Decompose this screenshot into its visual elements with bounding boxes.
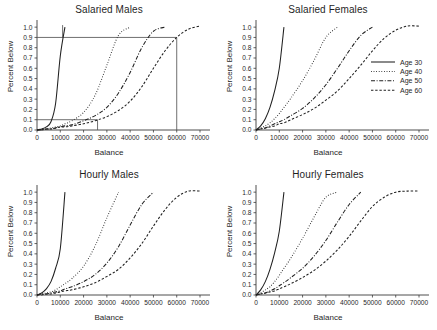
x-tick-label: 10000 (51, 299, 70, 306)
series-curve (256, 191, 419, 295)
y-tick-label: 0.9 (242, 34, 251, 41)
x-tick-label: 20000 (293, 134, 312, 141)
y-tick-label: 0.5 (242, 75, 251, 82)
x-tick-label: 60000 (387, 134, 406, 141)
series-curve (37, 27, 65, 130)
y-tick-label: 0.2 (242, 106, 251, 113)
y-tick-label: 0.7 (23, 54, 32, 61)
x-tick-label: 20000 (74, 299, 93, 306)
y-tick-label: 0.9 (23, 199, 32, 206)
y-tick-label: 0.1 (23, 281, 32, 288)
x-tick-label: 10000 (270, 134, 289, 141)
y-tick-label: 0.3 (242, 96, 251, 103)
y-tick-label: 0.1 (242, 116, 251, 123)
y-tick-label: 0.5 (23, 240, 32, 247)
x-tick-label: 50000 (363, 299, 382, 306)
plot-area: 0100002000030000400005000060000700000.00… (0, 0, 218, 165)
y-tick-label: 0.2 (23, 271, 32, 278)
y-tick-label: 0.1 (242, 281, 251, 288)
legend-label: Age 40 (400, 68, 422, 76)
y-tick-label: 0.4 (242, 250, 251, 257)
y-tick-label: 0.9 (242, 199, 251, 206)
y-tick-label: 1.0 (23, 189, 32, 196)
chart-panel-hourly-males: Hourly Males Percent Below Balance 01000… (0, 165, 218, 330)
y-tick-label: 0.5 (242, 240, 251, 247)
chart-panel-salaried-males: Salaried Males Percent Below Balance 010… (0, 0, 218, 165)
series-curve (37, 191, 200, 295)
x-tick-label: 0 (35, 299, 39, 306)
series-curve (256, 192, 361, 295)
x-tick-label: 10000 (270, 299, 289, 306)
series-curve (37, 26, 200, 130)
y-tick-label: 0.0 (242, 126, 251, 133)
y-tick-label: 0.4 (23, 85, 32, 92)
x-tick-label: 30000 (317, 134, 336, 141)
x-tick-label: 30000 (98, 134, 117, 141)
y-tick-label: 0.2 (242, 271, 251, 278)
y-tick-label: 0.6 (242, 230, 251, 237)
y-tick-label: 0.6 (23, 230, 32, 237)
y-tick-label: 0.4 (23, 250, 32, 257)
y-tick-label: 0.0 (23, 291, 32, 298)
y-tick-label: 1.0 (242, 189, 251, 196)
series-curve (256, 26, 419, 130)
x-tick-label: 70000 (410, 134, 429, 141)
series-curve (256, 192, 284, 295)
series-curve (256, 27, 338, 130)
x-tick-label: 0 (254, 134, 258, 141)
y-tick-label: 0.0 (242, 291, 251, 298)
x-tick-label: 0 (35, 134, 39, 141)
y-tick-label: 0.5 (23, 75, 32, 82)
y-tick-label: 0.4 (242, 85, 251, 92)
series-curve (256, 27, 372, 130)
series-curve (256, 192, 338, 295)
figure-panel-grid: Salaried Males Percent Below Balance 010… (0, 0, 437, 330)
legend-label: Age 60 (400, 87, 422, 95)
y-tick-label: 0.3 (23, 261, 32, 268)
x-tick-label: 70000 (191, 134, 210, 141)
x-tick-label: 50000 (363, 134, 382, 141)
y-tick-label: 1.0 (23, 24, 32, 31)
x-tick-label: 10000 (51, 134, 70, 141)
x-tick-label: 30000 (98, 299, 117, 306)
x-tick-label: 60000 (387, 299, 406, 306)
plot-area: 0100002000030000400005000060000700000.00… (219, 0, 437, 165)
y-tick-label: 0.7 (242, 219, 251, 226)
x-tick-label: 40000 (121, 134, 140, 141)
y-tick-label: 0.8 (242, 209, 251, 216)
chart-panel-hourly-females: Hourly Females Percent Below Balance 010… (219, 165, 437, 330)
y-tick-label: 0.7 (23, 219, 32, 226)
x-tick-label: 40000 (340, 299, 359, 306)
x-tick-label: 70000 (191, 299, 210, 306)
y-tick-label: 0.8 (23, 209, 32, 216)
y-tick-label: 0.6 (242, 65, 251, 72)
series-curve (37, 192, 119, 295)
chart-panel-salaried-females: Salaried Females Percent Below Balance 0… (219, 0, 437, 165)
y-tick-label: 0.0 (23, 126, 32, 133)
x-tick-label: 20000 (293, 299, 312, 306)
plot-area: 0100002000030000400005000060000700000.00… (219, 165, 437, 330)
y-tick-label: 0.3 (242, 261, 251, 268)
plot-area: 0100002000030000400005000060000700000.00… (0, 165, 218, 330)
x-tick-label: 60000 (168, 299, 187, 306)
y-tick-label: 0.2 (23, 106, 32, 113)
x-tick-label: 0 (254, 299, 258, 306)
series-curve (37, 192, 65, 295)
y-tick-label: 1.0 (242, 24, 251, 31)
y-tick-label: 0.9 (23, 34, 32, 41)
x-tick-label: 40000 (340, 134, 359, 141)
x-tick-label: 70000 (410, 299, 429, 306)
series-curve (256, 27, 284, 130)
y-tick-label: 0.1 (23, 116, 32, 123)
series-curve (37, 192, 153, 295)
y-tick-label: 0.6 (23, 65, 32, 72)
y-tick-label: 0.3 (23, 96, 32, 103)
x-tick-label: 40000 (121, 299, 140, 306)
y-tick-label: 0.8 (242, 44, 251, 51)
legend-label: Age 30 (400, 59, 422, 67)
x-tick-label: 50000 (144, 299, 163, 306)
x-tick-label: 30000 (317, 299, 336, 306)
x-tick-label: 50000 (144, 134, 163, 141)
series-curve (37, 27, 130, 130)
x-tick-label: 60000 (168, 134, 187, 141)
